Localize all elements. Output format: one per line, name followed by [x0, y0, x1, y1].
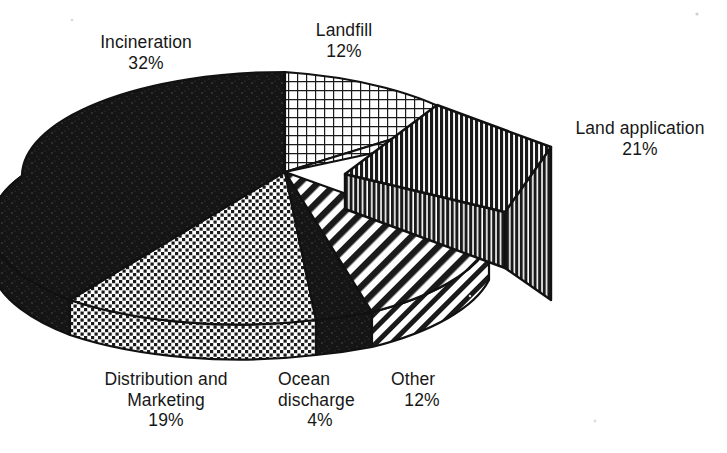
- slice-label-land-application: Land application 21%: [558, 118, 722, 159]
- slice-label-distribution-value: 19%: [78, 410, 254, 431]
- slice-label-incineration: Incineration 32%: [62, 32, 230, 73]
- slice-label-ocean-discharge-value: 4%: [278, 410, 362, 431]
- slice-label-other-name: Other: [391, 369, 477, 390]
- slice-label-incineration-value: 32%: [62, 53, 230, 74]
- slice-label-distribution-name-2: Marketing: [78, 390, 254, 411]
- scan-speckle: [469, 295, 471, 297]
- pie-chart-figure: Incineration 32% Landfill 12% Land appli…: [0, 0, 727, 453]
- slice-label-ocean-discharge-name-1: Ocean: [278, 369, 390, 390]
- slice-label-incineration-name: Incineration: [62, 32, 230, 53]
- slice-label-landfill-value: 12%: [287, 41, 401, 62]
- slice-label-other-value: 12%: [391, 390, 453, 411]
- scan-speckle: [695, 12, 698, 15]
- scan-speckle: [594, 420, 597, 423]
- slice-label-distribution-name-1: Distribution and: [78, 369, 254, 390]
- slice-label-landfill: Landfill 12%: [287, 20, 401, 61]
- slice-label-land-application-name: Land application: [558, 118, 722, 139]
- slice-label-ocean-discharge-name-2: discharge: [278, 390, 390, 411]
- slice-label-distribution-and-marketing: Distribution and Marketing 19%: [78, 369, 254, 431]
- scan-speckle: [71, 19, 74, 22]
- slice-label-other: Other 12%: [391, 369, 477, 410]
- slice-label-ocean-discharge: Ocean discharge 4%: [278, 369, 390, 431]
- slice-label-landfill-name: Landfill: [287, 20, 401, 41]
- slice-label-land-application-value: 21%: [558, 139, 722, 160]
